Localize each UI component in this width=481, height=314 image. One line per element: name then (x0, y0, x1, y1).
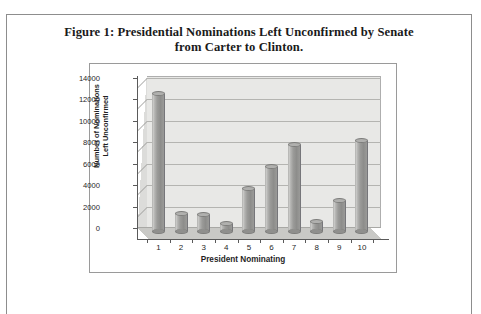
y-tick-label: 14000 (60, 74, 100, 83)
gridline (147, 99, 381, 100)
x-tick-label: 9 (328, 243, 350, 252)
bar-base-cap (288, 229, 301, 234)
bar (333, 201, 346, 231)
y-tick-label: 10000 (60, 117, 100, 126)
x-tick-mark (192, 239, 193, 243)
y-tick-mark (133, 142, 138, 143)
y-tick-label: 12000 (60, 95, 100, 104)
x-axis-title: President Nominating (90, 255, 396, 264)
bar-base-cap (333, 229, 346, 234)
y-tick-label: 0 (60, 224, 100, 233)
bar-base-cap (265, 229, 278, 234)
x-tick-label: 1 (148, 243, 170, 252)
x-tick-label: 5 (238, 243, 260, 252)
x-tick-label: 6 (261, 243, 283, 252)
bar-base-cap (152, 229, 165, 234)
x-tick-mark (238, 239, 239, 243)
bar-top-cap (310, 219, 323, 224)
x-tick-mark (351, 239, 352, 243)
bar (152, 94, 165, 231)
y-axis-title-line-2: Left Unconfirmed (101, 56, 110, 196)
gridline (147, 164, 381, 165)
y-tick-mark (133, 121, 138, 122)
x-tick-mark (373, 239, 374, 243)
bar-top-cap (355, 138, 368, 143)
bar (310, 222, 323, 231)
y-tick-mark (133, 78, 138, 79)
bar-top-cap (220, 221, 233, 226)
caption-line-2: from Carter to Clinton. (7, 40, 471, 55)
bar (288, 145, 301, 231)
y-tick-mark (133, 164, 138, 165)
bar-top-cap (242, 186, 255, 191)
x-tick-label: 7 (283, 243, 305, 252)
x-tick-mark (283, 239, 284, 243)
x-tick-mark (147, 239, 148, 243)
x-tick-mark (215, 239, 216, 243)
bar (175, 214, 188, 231)
x-tick-label: 4 (215, 243, 237, 252)
bar-top-cap (152, 91, 165, 96)
y-axis-line (137, 76, 138, 239)
figure-frame: Figure 1: Presidential Nominations Left … (6, 14, 472, 314)
gridline (147, 142, 381, 143)
caption-line-1: Figure 1: Presidential Nominations Left … (7, 25, 471, 40)
plot-area (138, 76, 381, 239)
gridline (147, 185, 381, 186)
x-tick-label: 10 (351, 243, 373, 252)
bar (242, 189, 255, 231)
x-tick-label: 8 (306, 243, 328, 252)
bar (197, 215, 210, 231)
bar-top-cap (197, 212, 210, 217)
x-tick-label: 2 (170, 243, 192, 252)
bar-base-cap (175, 229, 188, 234)
y-tick-mark (133, 185, 138, 186)
gridline (147, 207, 381, 208)
y-tick-label: 8000 (60, 138, 100, 147)
bar (355, 141, 368, 231)
bar-top-cap (175, 211, 188, 216)
figure-caption: Figure 1: Presidential Nominations Left … (7, 25, 471, 55)
bar-top-cap (288, 142, 301, 147)
x-tick-mark (328, 239, 329, 243)
bar-top-cap (265, 164, 278, 169)
x-tick-mark (260, 239, 261, 243)
x-tick-label: 3 (193, 243, 215, 252)
x-tick-mark (170, 239, 171, 243)
y-tick-mark (133, 228, 138, 229)
chart-container: Number of Nominations Left Unconfirmed 0… (89, 63, 397, 273)
gridline (147, 121, 381, 122)
y-tick-label: 6000 (60, 160, 100, 169)
bar (265, 167, 278, 231)
y-tick-label: 4000 (60, 181, 100, 190)
gridline (147, 78, 381, 79)
y-tick-mark (133, 207, 138, 208)
bar (220, 224, 233, 232)
y-tick-label: 2000 (60, 203, 100, 212)
bar-base-cap (220, 229, 233, 234)
bar-top-cap (333, 198, 346, 203)
y-tick-mark (133, 99, 138, 100)
x-tick-mark (305, 239, 306, 243)
